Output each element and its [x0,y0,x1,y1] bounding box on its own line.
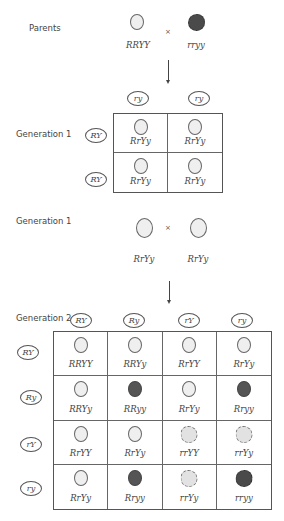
gen2-cell: RRYY [54,332,108,376]
gen2-cell: RRYy [108,332,162,376]
gen1-row-gamete: RY [85,172,107,187]
pea-yellow-round-icon [128,337,142,353]
pea-yellow-wrinkled-icon [235,426,252,443]
cell-genotype: RRYy [108,359,161,369]
gen2-cell: rrYy [163,465,217,509]
parent-left-pea-icon [130,14,144,30]
pea-yellow-round-icon [134,119,148,135]
parent-right-genotype: rryy [180,40,212,50]
cell-genotype: rrYy [217,448,271,458]
gen1-cell: RrYy [168,153,222,192]
gen2-cell: RrYy [54,465,108,509]
pea-yellow-wrinkled-icon [181,470,198,487]
gen2-punnett-square: RRYYRRYyRrYYRrYyRRYyRRyyRrYyRryyRrYYRrYy… [53,331,272,510]
cross-symbol: × [165,28,171,36]
cross-symbol: × [165,224,171,232]
pea-yellow-round-icon [237,337,251,353]
cell-genotype: RRYy [54,404,107,414]
pea-green-round-icon [128,381,142,397]
cell-genotype: Rryy [217,404,271,414]
parent-left-genotype: RRYY [122,40,154,50]
gen1-cell: RrYy [114,114,168,153]
cell-genotype: RrYy [168,176,222,186]
gen1-cell: RrYy [114,153,168,192]
pea-green-wrinkled-icon [235,470,252,487]
cell-genotype: RRYY [54,359,107,369]
gen2-cell: RrYY [54,421,108,465]
arrow-down-icon [168,60,169,80]
cell-genotype: RrYy [217,359,271,369]
parent-right-pea-icon [188,14,205,31]
cell-genotype: rryy [217,493,271,503]
parents-label: Parents [29,23,61,33]
gen2-row-gamete: RY [17,345,39,360]
cell-genotype: RRyy [108,404,161,414]
gen2-row-gamete: ry [20,481,42,496]
gen1-column-gamete: ry [127,91,149,106]
gen1-punnett-square: RrYyRrYyRrYyRrYy [113,113,223,193]
pea-yellow-round-icon [74,426,88,442]
cell-genotype: RrYy [114,176,167,186]
pea-yellow-round-icon [134,158,148,174]
gen2-column-gamete: rY [178,313,200,328]
pea-green-round-icon [128,470,142,486]
cell-genotype: RrYY [54,448,107,458]
arrow-down-icon [169,281,170,300]
pea-yellow-round-icon [182,337,196,353]
gen2-cell: RRYy [54,376,108,420]
cell-genotype: Rryy [108,493,161,503]
gen2-cell: RrYy [217,332,271,376]
cell-genotype: rrYY [163,448,216,458]
gen2-cell: Rryy [217,376,271,420]
pea-yellow-round-icon [188,158,202,174]
pea-yellow-round-icon [188,119,202,135]
gen1-right-pea-icon [190,218,207,238]
pea-yellow-round-icon [74,381,88,397]
gen2-column-gamete: Ry [123,313,145,328]
gen2-cell: RRyy [108,376,162,420]
gen2-cell: rrYY [163,421,217,465]
gen2-column-gamete: ry [231,313,253,328]
gen2-cell: Rryy [108,465,162,509]
cell-genotype: RrYy [114,136,167,146]
generation1-label: Generation 1 [16,129,72,139]
gen1-column-gamete: ry [188,91,210,106]
gen2-cell: rryy [217,465,271,509]
pea-yellow-round-icon [128,426,142,442]
gen1-cell: RrYy [168,114,222,153]
arrow-head-icon [166,80,170,84]
gen2-cell: RrYy [108,421,162,465]
pea-yellow-wrinkled-icon [181,426,198,443]
gen1-left-pea-icon [136,218,153,238]
arrow-head-icon [167,300,171,304]
pea-yellow-round-icon [74,470,88,486]
gen2-cell: RrYy [163,376,217,420]
pea-yellow-round-icon [74,337,88,353]
gen1-right-genotype: RrYy [182,254,214,264]
cell-genotype: RrYy [163,404,216,414]
cell-genotype: RrYy [54,493,107,503]
pea-green-round-icon [237,381,251,397]
gen1-row-gamete: RY [85,128,107,143]
gen2-cell: rrYy [217,421,271,465]
pea-yellow-round-icon [182,381,196,397]
cell-genotype: RrYY [163,359,216,369]
gen2-cell: RrYY [163,332,217,376]
cell-genotype: RrYy [168,136,222,146]
gen2-row-gamete: Ry [20,390,42,405]
generation1-cross-label: Generation 1 [16,216,72,226]
cell-genotype: RrYy [108,448,161,458]
generation2-label: Generation 2 [16,313,72,323]
gen1-left-genotype: RrYy [128,254,160,264]
cell-genotype: rrYy [163,493,216,503]
gen2-row-gamete: rY [20,437,42,452]
gen2-column-gamete: RY [70,313,92,328]
